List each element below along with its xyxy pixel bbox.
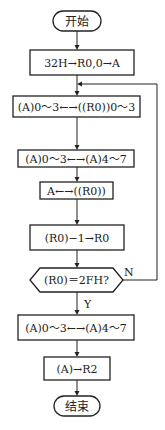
arrow-icon	[75, 352, 80, 357]
process-box-exchange: A←→((R0))	[40, 182, 113, 199]
step-label: (A)0～3←→(A)4～7	[25, 153, 126, 166]
arrow-icon	[75, 263, 80, 268]
decision-label: (R0)＝2FH?	[44, 274, 109, 287]
yes-branch-label: Y	[83, 298, 92, 311]
process-box-store-result: (A)→R2	[44, 357, 110, 380]
arrow-icon	[75, 45, 80, 50]
decision-node: (R0)＝2FH?	[30, 268, 123, 292]
end-terminal: 结束	[54, 396, 100, 416]
process-box-init: 32H→R0,0→A	[30, 50, 134, 75]
start-terminal: 开始	[53, 11, 101, 31]
process-box-swap-low-nibble: (A)0～3←→((R0))0～3	[13, 96, 140, 117]
step-label: (R0)−1→R0	[45, 232, 110, 245]
process-box-swap-nibbles-final: (A)0～3←→(A)4～7	[18, 315, 134, 340]
arrow-icon	[75, 145, 80, 150]
start-label: 开始	[65, 15, 89, 29]
flowchart: 开始 32H→R0,0→A (A)0～3←→((R0))0～3 (A)0～3←→…	[0, 0, 165, 430]
step-label: (A)→R2	[56, 363, 97, 376]
step-label: 32H→R0,0→A	[44, 57, 121, 70]
arrow-icon	[77, 82, 82, 87]
arrow-icon	[75, 220, 80, 225]
step-label: (A)0～3←→(A)4～7	[25, 322, 126, 335]
process-box-decrement: (R0)−1→R0	[30, 225, 124, 250]
step-label: A←→((R0))	[46, 185, 106, 198]
arrow-icon	[75, 177, 80, 182]
process-box-swap-nibbles: (A)0～3←→(A)4～7	[18, 150, 134, 167]
step-label: (A)0～3←→((R0))0～3	[18, 101, 135, 114]
arrow-icon	[75, 91, 80, 96]
arrow-icon	[75, 310, 80, 315]
arrow-icon	[75, 391, 80, 396]
end-label: 结束	[65, 400, 89, 414]
no-branch-label: N	[124, 266, 134, 279]
